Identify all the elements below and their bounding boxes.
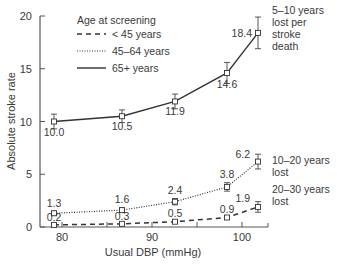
legend-label: 65+ years [112, 62, 158, 74]
data-label: 2.4 [168, 184, 183, 196]
data-label: 0.5 [168, 207, 183, 219]
x-tick-label: 100 [233, 231, 251, 243]
y-tick-label: 0 [26, 221, 32, 233]
y-tick-label: 20 [20, 10, 32, 22]
stroke-rate-chart: 051015208090100 Age at screening< 45 yea… [0, 0, 337, 265]
legend-title: Age at screening [77, 14, 156, 26]
data-point-marker [225, 184, 230, 189]
y-tick-label: 15 [20, 63, 32, 75]
data-point-marker [256, 204, 261, 209]
data-point-marker [120, 114, 125, 119]
data-label: 0.3 [115, 210, 130, 222]
data-point-marker [173, 99, 178, 104]
data-point-marker [173, 199, 178, 204]
series-group: 10.010.511.914.618.45–10 yearslost perst… [44, 4, 330, 227]
data-label: 18.4 [232, 27, 253, 39]
data-label: 0.9 [220, 203, 235, 215]
y-tick-label: 10 [20, 116, 32, 128]
data-point-marker [120, 221, 125, 226]
series-annotation: lost [272, 166, 288, 178]
series-annotation: 20–30 years [272, 183, 330, 195]
y-tick-label: 5 [26, 168, 32, 180]
legend: Age at screening< 45 years45–64 years65+… [77, 14, 170, 74]
data-label: 11.9 [165, 105, 185, 117]
data-point-marker [256, 159, 261, 164]
data-point-marker [52, 119, 57, 124]
data-point-marker [256, 30, 261, 35]
y-axis-title: Absolute stroke rate [5, 72, 17, 170]
data-label: 1.9 [235, 192, 250, 204]
series-annotation: lost per [272, 16, 307, 28]
data-label: 1.3 [47, 197, 62, 209]
x-tick-label: 80 [56, 231, 68, 243]
data-label: 6.2 [235, 148, 250, 160]
series-annotation: lost [272, 195, 288, 207]
data-label: 3.8 [220, 168, 235, 180]
x-axis-title: Usual DBP (mmHg) [105, 246, 201, 258]
series-annotation: 5–10 years [272, 4, 324, 16]
data-point-marker [52, 222, 57, 227]
data-label: 14.6 [217, 78, 238, 90]
series-annotation: stroke [272, 28, 301, 40]
legend-label: < 45 years [112, 28, 161, 40]
data-label: 1.6 [115, 193, 130, 205]
series-annotation: death [272, 40, 298, 52]
legend-label: 45–64 years [112, 45, 170, 57]
x-tick-label: 90 [146, 231, 158, 243]
data-point-marker [225, 215, 230, 220]
data-label: 10.5 [112, 120, 133, 132]
series-dashed: 0.20.30.50.91.920–30 yearslost [47, 183, 330, 227]
data-point-marker [173, 219, 178, 224]
series-annotation: 10–20 years [272, 154, 330, 166]
data-label: 0.2 [47, 211, 62, 223]
data-point-marker [225, 70, 230, 75]
data-label: 10.0 [44, 126, 65, 138]
